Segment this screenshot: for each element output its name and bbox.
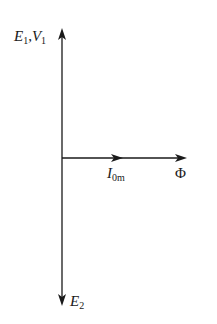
i0m-label: I0m	[107, 166, 125, 183]
e1-symbol: E	[14, 28, 23, 44]
e2-symbol: E	[70, 293, 79, 309]
e2-label: E2	[70, 294, 84, 311]
i0m-subscript: 0m	[112, 172, 125, 183]
phi-label: Φ	[175, 166, 186, 181]
e1-v1-label: E1,V1	[14, 29, 46, 46]
phi-symbol: Φ	[175, 165, 186, 181]
e2-subscript: 2	[79, 300, 84, 311]
v1-symbol: V	[32, 28, 41, 44]
phasor-diagram	[0, 0, 217, 324]
v1-subscript: 1	[41, 35, 46, 46]
